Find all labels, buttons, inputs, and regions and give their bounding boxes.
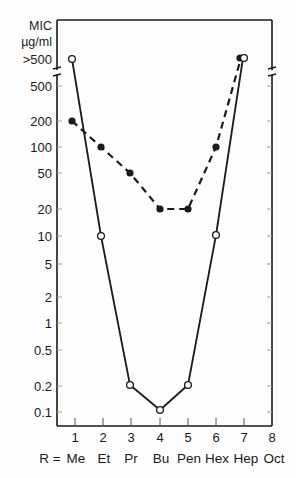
y-axis-title-line1: MIC: [29, 19, 52, 33]
category-label: Hex: [205, 451, 229, 466]
y-tick-label: 100: [30, 140, 52, 155]
category-label: Bu: [153, 451, 170, 466]
x-tick-label: 6: [212, 430, 219, 445]
series-filled-markers: [68, 54, 243, 212]
data-point-open: [98, 233, 105, 240]
y-tick-label: 2: [45, 290, 52, 305]
x-tick-label: 8: [268, 430, 275, 445]
data-point-filled: [126, 169, 133, 176]
y-tick-label: 20: [38, 202, 52, 217]
y-tick-label: 0.1: [34, 405, 52, 420]
data-point-open: [157, 407, 164, 414]
data-point-open: [69, 56, 76, 63]
data-point-open: [213, 232, 220, 239]
x-tick-label: 5: [184, 430, 191, 445]
y-ticks: [57, 86, 272, 412]
y-tick-label: 0.5: [34, 343, 52, 358]
category-label: Pen: [177, 451, 201, 466]
category-label: Et: [98, 451, 111, 466]
category-label: Me: [67, 451, 86, 466]
x-tick-label: 2: [99, 430, 106, 445]
y-tick-label: 50: [38, 166, 52, 181]
y-axis-title-line2: µg/ml: [21, 35, 52, 49]
data-point-filled: [184, 205, 191, 212]
y-tick-label: 5: [45, 257, 52, 272]
x-ticks: [75, 418, 244, 426]
y-tick-label: 200: [30, 114, 52, 129]
x-tick-label: 7: [240, 430, 247, 445]
axis-break-marks: [53, 67, 276, 76]
chart-svg: MIC µg/ml >500 500 200 100 50 20 10 5 2 …: [0, 0, 296, 478]
data-point-open: [185, 382, 192, 389]
category-labels: R = Me Et Pr Bu Pen Hex Hep Oct: [39, 451, 284, 466]
data-point-filled: [97, 143, 104, 150]
series-filled-dashed-line: [72, 58, 241, 209]
series-open-markers: [69, 55, 248, 414]
y-tick-labels: 500 200 100 50 20 10 5 2 1 0.5 0.2 0.1: [30, 79, 52, 420]
category-label: Oct: [263, 451, 284, 466]
x-tick-label: 1: [71, 430, 78, 445]
y-tick-label: 1: [45, 316, 52, 331]
data-point-filled: [68, 117, 75, 124]
category-label: Hep: [234, 451, 259, 466]
r-prefix-label: R =: [39, 451, 61, 466]
chart-figure: MIC µg/ml >500 500 200 100 50 20 10 5 2 …: [0, 0, 296, 478]
x-tick-label: 4: [156, 430, 163, 445]
y-tick-label: 10: [38, 229, 52, 244]
y-tick-label-gt500: >500: [23, 52, 52, 67]
data-point-open: [127, 382, 134, 389]
category-label: Pr: [124, 451, 138, 466]
data-point-filled: [156, 205, 163, 212]
data-point-filled: [212, 143, 219, 150]
y-tick-label: 500: [30, 79, 52, 94]
x-tick-label: 3: [127, 430, 134, 445]
y-tick-label: 0.2: [34, 379, 52, 394]
x-tick-labels: 1 2 3 4 5 6 7 8: [71, 430, 275, 445]
data-point-open: [241, 55, 248, 62]
